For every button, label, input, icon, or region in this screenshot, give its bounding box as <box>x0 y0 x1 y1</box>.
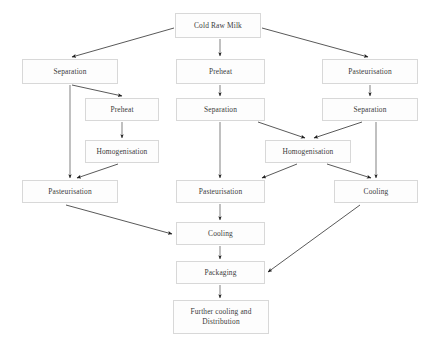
node-label-preheat-center-top: Preheat <box>179 67 262 77</box>
node-cooling-center[interactable]: Cooling <box>176 222 265 245</box>
node-label-preheat-left: Preheat <box>88 105 156 115</box>
node-label-cold-raw-milk: Cold Raw Milk <box>178 21 258 31</box>
edge-separation-right-to-homogenisation-right <box>314 122 362 138</box>
node-homogenisation-left[interactable]: Homogenisation <box>85 140 159 163</box>
node-label-further-cooling-and-distribution: Further cooling and Distribution <box>176 307 266 327</box>
edge-cold-raw-milk-to-pasteurisation-right <box>262 28 368 57</box>
node-pasteurisation-right[interactable]: Pasteurisation <box>322 59 418 84</box>
node-separation-center[interactable]: Separation <box>176 98 265 121</box>
node-preheat-center-top[interactable]: Preheat <box>176 59 265 84</box>
node-label-pasteurisation-center: Pasteurisation <box>179 187 262 197</box>
node-label-cooling-center: Cooling <box>179 229 262 239</box>
edge-pasteurisation-left-to-cooling-center <box>66 205 172 234</box>
node-preheat-left[interactable]: Preheat <box>85 98 159 121</box>
node-label-homogenisation-left: Homogenisation <box>88 147 156 157</box>
node-cooling-right[interactable]: Cooling <box>334 180 418 203</box>
node-pasteurisation-left[interactable]: Pasteurisation <box>22 180 118 203</box>
edge-homogenisation-right-to-pasteurisation-center <box>262 164 297 178</box>
node-cold-raw-milk[interactable]: Cold Raw Milk <box>175 13 261 38</box>
node-label-pasteurisation-left: Pasteurisation <box>25 187 115 197</box>
node-label-separation-center: Separation <box>179 105 262 115</box>
node-label-homogenisation-right: Homogenisation <box>268 147 348 157</box>
node-separation-left[interactable]: Separation <box>22 59 118 84</box>
edge-homogenisation-left-to-pasteurisation-left <box>77 164 118 178</box>
node-label-packaging: Packaging <box>179 268 262 278</box>
edge-homogenisation-right-to-cooling-right <box>327 164 371 178</box>
node-label-separation-left: Separation <box>25 67 115 77</box>
edge-cold-raw-milk-to-separation-left <box>72 28 174 57</box>
node-packaging[interactable]: Packaging <box>176 261 265 284</box>
node-label-pasteurisation-right: Pasteurisation <box>325 67 415 77</box>
node-label-cooling-right: Cooling <box>337 187 415 197</box>
edge-separation-left-to-preheat-left <box>72 85 122 96</box>
node-pasteurisation-center[interactable]: Pasteurisation <box>176 180 265 203</box>
node-label-separation-right: Separation <box>325 105 415 115</box>
edge-cooling-right-to-packaging <box>268 205 360 272</box>
node-homogenisation-right[interactable]: Homogenisation <box>265 140 351 163</box>
node-separation-right[interactable]: Separation <box>322 98 418 121</box>
milk-processing-flowchart: Cold Raw Milk Separation Preheat Pasteur… <box>0 0 428 346</box>
edge-separation-center-to-homogenisation-right <box>258 122 305 138</box>
node-further-cooling-and-distribution[interactable]: Further cooling and Distribution <box>173 300 269 334</box>
flowchart-edges-layer <box>0 0 428 346</box>
